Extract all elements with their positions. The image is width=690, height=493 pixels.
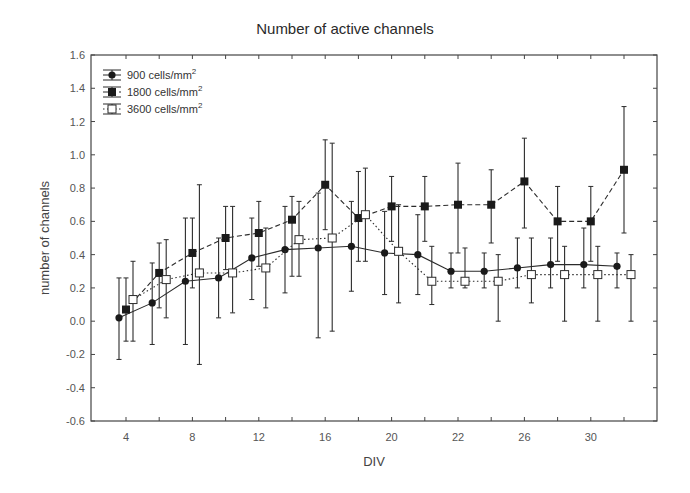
data-point [295, 236, 303, 244]
chart-plot: -0.6-0.4-0.20.00.20.40.60.81.01.21.41.6 … [0, 0, 690, 493]
legend-marker [108, 71, 115, 78]
data-point [262, 264, 270, 272]
data-point [481, 268, 488, 275]
data-point [328, 234, 336, 242]
data-point [494, 277, 502, 285]
data-point [514, 264, 521, 271]
data-point [421, 202, 429, 210]
x-tick-label: 30 [585, 431, 597, 443]
y-tick-label: 1.6 [70, 49, 85, 61]
data-point [248, 254, 255, 261]
data-point [580, 261, 587, 268]
y-tick-label: 1.4 [70, 82, 85, 94]
data-point [388, 202, 396, 210]
legend-item: 3600 cells/mm2 [103, 101, 203, 115]
y-tick-label: 0.2 [70, 282, 85, 294]
data-point [381, 249, 388, 256]
data-point [395, 247, 403, 255]
data-point [195, 269, 203, 277]
x-tick-label: 16 [319, 431, 331, 443]
data-point [149, 299, 156, 306]
data-point [321, 181, 329, 189]
data-point [162, 276, 170, 284]
data-point [454, 201, 462, 209]
x-tick-label: 20 [385, 431, 397, 443]
data-point [255, 229, 263, 237]
y-axis-label: number of channels [37, 180, 52, 295]
data-point [554, 217, 562, 225]
data-point [115, 314, 122, 321]
data-point [527, 271, 535, 279]
series-1 [122, 107, 628, 342]
data-point [620, 166, 628, 174]
data-point [520, 177, 528, 185]
series-line [119, 246, 617, 318]
legend-marker [108, 105, 116, 113]
legend-item: 1800 cells/mm2 [103, 84, 203, 98]
data-point [229, 269, 237, 277]
legend-superscript: 2 [192, 67, 197, 76]
legend-marker [108, 88, 116, 96]
x-tick-label: 4 [123, 431, 129, 443]
data-point [348, 243, 355, 250]
y-tick-label: 0.8 [70, 182, 85, 194]
legend-item: 900 cells/mm2 [103, 67, 197, 81]
data-point [288, 216, 296, 224]
data-point [428, 277, 436, 285]
x-axis-label: DIV [363, 454, 385, 469]
y-tick-label: -0.6 [66, 415, 85, 427]
y-tick-label: 0.4 [70, 249, 85, 261]
y-tick-label: -0.2 [66, 348, 85, 360]
y-tick-label: 1.0 [70, 149, 85, 161]
data-point [487, 201, 495, 209]
series-line [133, 215, 631, 300]
data-point [627, 271, 635, 279]
x-tick-label: 26 [518, 431, 530, 443]
data-point [315, 244, 322, 251]
data-point [447, 268, 454, 275]
data-point [461, 277, 469, 285]
x-tick-label: 8 [189, 431, 195, 443]
y-tick-label: 1.2 [70, 116, 85, 128]
data-point [414, 251, 421, 258]
data-point [594, 271, 602, 279]
legend-label: 1800 cells/mm2 [127, 84, 203, 98]
series-layer [115, 107, 635, 365]
series-line [126, 170, 624, 310]
data-point [182, 278, 189, 285]
legend-label: 900 cells/mm2 [127, 67, 197, 81]
legend-superscript: 2 [198, 84, 203, 93]
legend-superscript: 2 [198, 101, 203, 110]
y-tick-label: -0.4 [66, 382, 85, 394]
data-point [561, 271, 569, 279]
data-point [188, 249, 196, 257]
y-tick-label: 0.6 [70, 215, 85, 227]
legend: 900 cells/mm21800 cells/mm23600 cells/mm… [103, 67, 203, 115]
data-point [222, 234, 230, 242]
legend-label: 3600 cells/mm2 [127, 101, 203, 115]
x-axis: 48121620222630 [123, 55, 624, 443]
data-point [613, 263, 620, 270]
data-point [129, 296, 137, 304]
data-point [587, 217, 595, 225]
x-tick-label: 12 [253, 431, 265, 443]
data-point [361, 211, 369, 219]
data-point [215, 274, 222, 281]
data-point [547, 261, 554, 268]
x-tick-label: 22 [452, 431, 464, 443]
data-point [122, 306, 130, 314]
y-tick-label: 0.0 [70, 315, 85, 327]
